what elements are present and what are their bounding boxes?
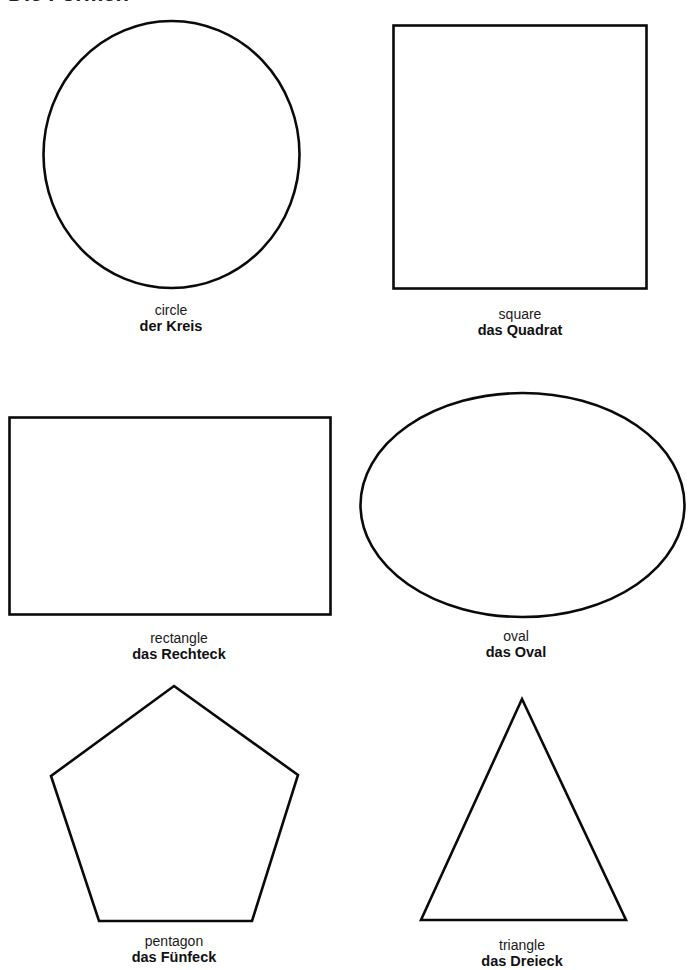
- oval-label: oval das Oval: [396, 628, 636, 660]
- pentagon-label: pentagon das Fünfeck: [54, 933, 294, 965]
- circle-german: der Kreis: [51, 318, 291, 334]
- triangle-shape: [421, 699, 626, 920]
- circle-english: circle: [51, 302, 291, 318]
- rectangle-english: rectangle: [59, 630, 299, 646]
- rectangle-shape: [10, 418, 331, 615]
- square-shape: [394, 26, 647, 289]
- shapes-canvas: [0, 0, 691, 970]
- rectangle-label: rectangle das Rechteck: [59, 630, 299, 662]
- oval-english: oval: [396, 628, 636, 644]
- rectangle-german: das Rechteck: [59, 646, 299, 662]
- square-english: square: [400, 306, 640, 322]
- square-label: square das Quadrat: [400, 306, 640, 338]
- pentagon-german: das Fünfeck: [54, 949, 294, 965]
- pentagon-english: pentagon: [54, 933, 294, 949]
- circle-shape: [44, 21, 300, 288]
- oval-german: das Oval: [396, 644, 636, 660]
- square-german: das Quadrat: [400, 322, 640, 338]
- pentagon-shape: [51, 686, 298, 921]
- triangle-german: das Dreieck: [402, 953, 642, 969]
- triangle-label: triangle das Dreieck: [402, 937, 642, 969]
- circle-label: circle der Kreis: [51, 302, 291, 334]
- oval-shape: [361, 393, 685, 617]
- triangle-english: triangle: [402, 937, 642, 953]
